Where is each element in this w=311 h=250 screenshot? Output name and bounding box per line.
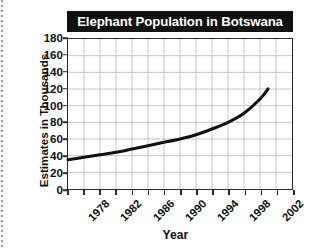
chart-title: Elephant Population in Botswana bbox=[67, 11, 293, 32]
x-tick-mark bbox=[212, 190, 214, 195]
y-tick-mark bbox=[63, 122, 68, 124]
y-tick-mark bbox=[63, 155, 68, 157]
y-tick-mark bbox=[63, 105, 68, 107]
x-tick-mark bbox=[261, 190, 263, 195]
y-tick-label: 40 bbox=[50, 150, 63, 162]
x-tick-mark bbox=[180, 190, 182, 195]
x-tick-mark bbox=[196, 190, 198, 195]
y-tick-mark bbox=[63, 54, 68, 56]
x-tick-label: 1986 bbox=[151, 198, 177, 224]
x-tick-mark bbox=[164, 190, 166, 195]
x-tick-mark bbox=[83, 190, 85, 195]
x-axis-title: Year bbox=[0, 228, 311, 242]
y-tick-label: 180 bbox=[44, 32, 63, 44]
x-tick-mark bbox=[99, 190, 101, 195]
x-tick-label: 1978 bbox=[86, 198, 112, 224]
vertical-gridlines bbox=[84, 39, 276, 189]
y-tick-label: 80 bbox=[50, 117, 63, 129]
chart-figure: Elephant Population in Botswana 02040608… bbox=[0, 0, 311, 250]
x-tick-mark bbox=[277, 190, 279, 195]
page-edge-rule bbox=[1, 0, 3, 250]
y-tick-label: 60 bbox=[50, 134, 63, 146]
x-tick-mark bbox=[228, 190, 230, 195]
plot-area bbox=[67, 38, 293, 190]
plot-svg bbox=[68, 39, 292, 189]
x-tick-mark bbox=[148, 190, 150, 195]
y-tick-mark bbox=[63, 37, 68, 39]
y-tick-mark bbox=[63, 88, 68, 90]
x-tick-label: 1998 bbox=[248, 198, 274, 224]
x-tick-mark bbox=[293, 190, 295, 195]
x-tick-mark bbox=[67, 190, 69, 195]
x-tick-label: 1994 bbox=[215, 198, 241, 224]
x-tick-label: 2002 bbox=[280, 198, 306, 224]
x-tick-label: 1982 bbox=[119, 198, 145, 224]
y-tick-mark bbox=[63, 71, 68, 73]
x-tick-mark bbox=[115, 190, 117, 195]
y-tick-mark bbox=[63, 172, 68, 174]
x-tick-mark bbox=[132, 190, 134, 195]
x-tick-label: 1990 bbox=[183, 198, 209, 224]
y-axis-title: Estimates in Thousands bbox=[37, 46, 50, 196]
data-line-elephant-population bbox=[68, 89, 268, 160]
y-tick-label: 20 bbox=[50, 167, 63, 179]
x-tick-mark bbox=[245, 190, 247, 195]
y-tick-mark bbox=[63, 139, 68, 141]
